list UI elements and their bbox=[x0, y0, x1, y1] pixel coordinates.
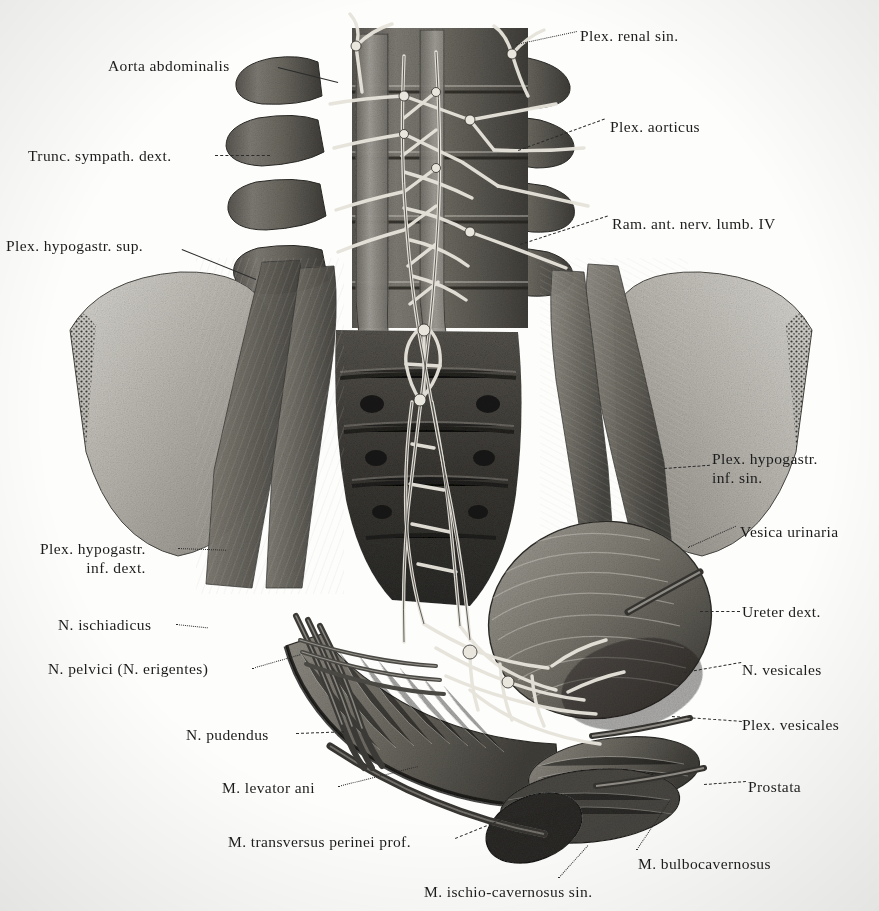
label-line: Plex. hypogastr. bbox=[40, 540, 146, 559]
label-line: inf. sin. bbox=[712, 469, 818, 488]
label-m-levator-ani: M. levator ani bbox=[222, 779, 315, 798]
label-n-pudendus: N. pudendus bbox=[186, 726, 269, 745]
label-plex-hypogastr-inf-dext: Plex. hypogastr.inf. dext. bbox=[40, 540, 146, 578]
leader-ureter-dext bbox=[700, 611, 740, 612]
label-prostata: Prostata bbox=[748, 778, 801, 797]
label-line: Plex. hypogastr. bbox=[712, 450, 818, 469]
leader-trunc-sympath-dext bbox=[215, 155, 270, 156]
label-n-pelvici-erigentes: N. pelvici (N. erigentes) bbox=[48, 660, 208, 679]
label-ram-ant-nerv-lumb-iv: Ram. ant. nerv. lumb. IV bbox=[612, 215, 776, 234]
label-m-ischio-cavernosus-sin: M. ischio-cavernosus sin. bbox=[424, 883, 592, 902]
label-vesica-urinaria: Vesica urinaria bbox=[740, 523, 839, 542]
label-n-ischiadicus: N. ischiadicus bbox=[58, 616, 151, 635]
label-n-vesicales: N. vesicales bbox=[742, 661, 822, 680]
label-plex-renal-sin: Plex. renal sin. bbox=[580, 27, 679, 46]
label-aorta-abdominalis: Aorta abdominalis bbox=[108, 57, 230, 76]
label-ureter-dext: Ureter dext. bbox=[742, 603, 821, 622]
label-plex-aorticus: Plex. aorticus bbox=[610, 118, 700, 137]
label-m-transversus-perinei: M. transversus perinei prof. bbox=[228, 833, 411, 852]
label-line: inf. dext. bbox=[40, 559, 146, 578]
label-plex-hypogastr-inf-sin: Plex. hypogastr.inf. sin. bbox=[712, 450, 818, 488]
label-plex-hypogastr-sup: Plex. hypogastr. sup. bbox=[6, 237, 143, 256]
label-plex-vesicales: Plex. vesicales bbox=[742, 716, 839, 735]
label-m-bulbocavernosus: M. bulbocavernosus bbox=[638, 855, 771, 874]
anatomical-plate: Aorta abdominalisTrunc. sympath. dext.Pl… bbox=[0, 0, 879, 911]
label-trunc-sympath-dext: Trunc. sympath. dext. bbox=[28, 147, 171, 166]
